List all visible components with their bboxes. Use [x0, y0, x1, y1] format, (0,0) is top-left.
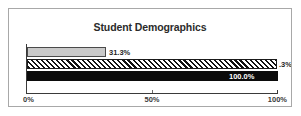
x-tick-label-0: 0%	[23, 95, 34, 104]
bar-label-series-1: 31.3%	[109, 48, 130, 57]
bar-series-2[interactable]	[27, 59, 277, 69]
x-axis-tick-50	[152, 90, 153, 93]
bar-series-1[interactable]	[27, 47, 106, 57]
x-tick-label-100: 100%	[268, 95, 287, 104]
chart-title: Student Demographics	[9, 21, 291, 33]
bar-label-series-3: 100.0%	[229, 72, 254, 81]
chart-clip-region: Student Demographics 31.3% .3% 100.0%	[9, 9, 291, 106]
x-tick-label-50: 50%	[144, 95, 159, 104]
x-axis-line	[26, 93, 278, 94]
x-axis-start-cap	[26, 90, 27, 94]
chart-card: Student Demographics 31.3% .3% 100.0%	[8, 8, 292, 107]
x-axis-end-cap	[277, 90, 278, 94]
x-axis-tick-labels: 0% 50% 100%	[26, 95, 278, 106]
plot-area: 31.3% .3% 100.0%	[26, 44, 278, 94]
bar-label-series-2: .3%	[279, 60, 291, 69]
